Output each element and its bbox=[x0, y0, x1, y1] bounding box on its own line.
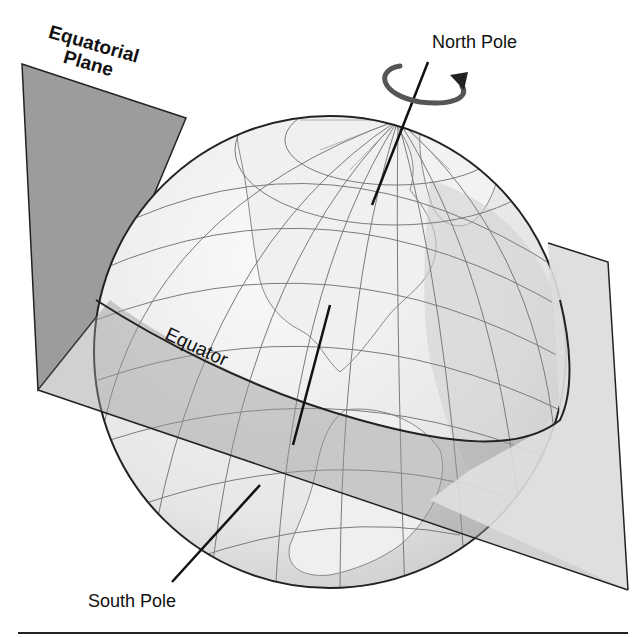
earth-diagram bbox=[0, 0, 643, 637]
rotation-arrow-icon bbox=[385, 66, 468, 103]
north-pole-label: North Pole bbox=[432, 32, 517, 53]
south-pole-label: South Pole bbox=[88, 591, 176, 612]
bottom-divider bbox=[18, 632, 628, 634]
